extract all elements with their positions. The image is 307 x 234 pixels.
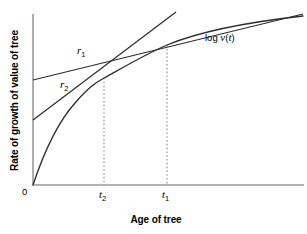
x-tick-label-t2-subscript: 2 xyxy=(102,194,106,203)
origin-label: 0 xyxy=(22,186,27,197)
chart-plot-area xyxy=(0,0,307,234)
y-axis-title: Rate of growth of value of tree xyxy=(9,21,20,181)
tangent-line-r1 xyxy=(33,14,303,80)
x-axis-title: Age of tree xyxy=(96,214,216,225)
x-tick-label-t1: t1 xyxy=(162,188,169,203)
tangent-label-r1-subscript: 1 xyxy=(81,50,85,59)
curve-label-prefix: log xyxy=(205,32,220,43)
x-tick-label-t1-subscript: 1 xyxy=(165,194,169,203)
curve-label-paren-close: ) xyxy=(231,32,234,43)
tangent-label-r2: r2 xyxy=(60,78,68,93)
tangent-label-r2-subscript: 2 xyxy=(64,84,68,93)
chart-figure: Rate of growth of value of tree Age of t… xyxy=(0,0,307,234)
tangent-label-r1: r1 xyxy=(77,44,85,59)
curve-log-v-t xyxy=(33,16,303,185)
curve-label: log v(t) xyxy=(205,31,235,43)
tangent-line-r2 xyxy=(33,12,176,120)
x-tick-label-t2: t2 xyxy=(99,188,106,203)
